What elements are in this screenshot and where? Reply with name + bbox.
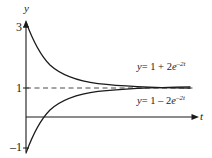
plot-canvas [0,0,212,158]
y-tick-label-neg1: –1 [4,141,22,153]
y-tick-label-3: 3 [8,21,22,33]
curve-annotation-upper: y= 1 + 2e–2t [137,62,186,73]
curve-annotation-upper-eq: = 1 + 2 [142,61,172,72]
t-axis-arrowhead [192,114,200,120]
curve-annotation-lower: y= 1 – 2e–2t [137,96,185,107]
curve-upper [26,22,190,88]
exponential-decay-figure: y t 3 1 –1 y= 1 + 2e–2t y= 1 – 2e–2t [0,0,212,158]
curve-annotation-lower-eq: = 1 – 2 [142,95,172,106]
y-axis-label: y [24,3,29,14]
curve-annotation-upper-exponent: –2t [177,60,186,68]
y-tick-label-1: 1 [8,82,22,94]
curve-annotation-lower-exponent: –2t [176,94,185,102]
t-axis-label: t [200,111,203,122]
